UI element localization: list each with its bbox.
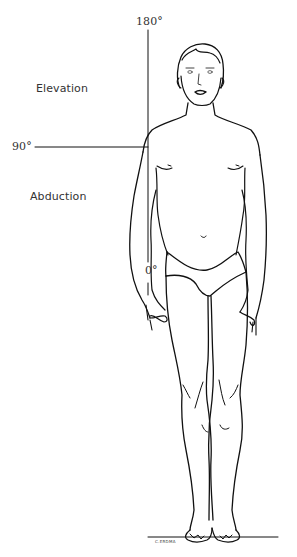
torso-outline	[130, 103, 267, 335]
diagram-canvas: 180° Elevation 90° Abduction 0° C.ERDMA	[0, 0, 297, 557]
left-eye	[188, 71, 192, 74]
angle-marker-0: 0°	[145, 264, 158, 277]
angle-marker-180: 180°	[136, 15, 163, 28]
angle-marker-90: 90°	[12, 140, 32, 153]
artist-signature: C.ERDMA	[155, 539, 176, 544]
abduction-label: Abduction	[30, 190, 86, 203]
legs	[166, 272, 248, 530]
feet	[186, 528, 240, 542]
mouth	[195, 91, 206, 95]
briefs	[166, 252, 246, 296]
elevation-label: Elevation	[36, 82, 88, 95]
right-eye	[208, 71, 212, 74]
head	[177, 44, 223, 106]
